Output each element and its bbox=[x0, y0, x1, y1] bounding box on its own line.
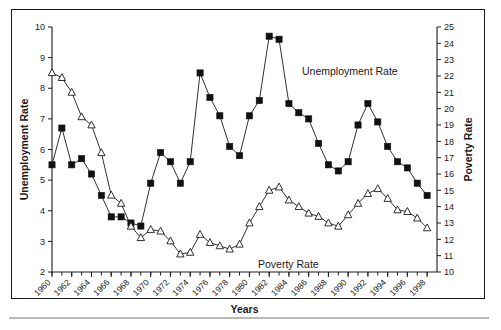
marker-unemployment bbox=[227, 143, 233, 149]
left-axis-tick-label: 9 bbox=[40, 53, 45, 63]
marker-poverty bbox=[275, 183, 282, 190]
marker-poverty bbox=[147, 226, 154, 233]
marker-unemployment bbox=[385, 143, 391, 149]
marker-poverty bbox=[295, 203, 302, 210]
left-axis-tick-label: 2 bbox=[40, 267, 45, 277]
marker-poverty bbox=[364, 190, 371, 197]
marker-unemployment bbox=[187, 159, 193, 165]
annotation-unemployment-rate: Unemployment Rate bbox=[302, 65, 398, 77]
right-axis-title: Poverty Rate bbox=[462, 117, 474, 181]
marker-poverty bbox=[414, 214, 421, 221]
x-axis-tick-label: 1966 bbox=[91, 277, 112, 298]
marker-unemployment bbox=[365, 100, 371, 106]
right-axis-tick-label: 25 bbox=[444, 22, 454, 32]
marker-poverty bbox=[98, 149, 105, 156]
marker-unemployment bbox=[157, 149, 163, 155]
x-axis-tick-label: 1976 bbox=[190, 277, 211, 298]
right-axis-tick-label: 23 bbox=[444, 55, 454, 65]
right-axis-tick-label: 16 bbox=[444, 169, 454, 179]
marker-poverty bbox=[206, 239, 213, 246]
left-axis-tick-label: 3 bbox=[40, 237, 45, 247]
x-axis-tick-label: 1988 bbox=[308, 277, 329, 298]
marker-unemployment bbox=[118, 214, 124, 220]
marker-poverty bbox=[196, 230, 203, 237]
x-axis-tick-label: 1960 bbox=[32, 277, 53, 298]
marker-unemployment bbox=[414, 180, 420, 186]
marker-poverty bbox=[187, 248, 194, 255]
left-axis-tick-label: 4 bbox=[40, 206, 45, 216]
marker-poverty bbox=[68, 88, 75, 95]
right-axis-tick-label: 12 bbox=[444, 235, 454, 245]
marker-unemployment bbox=[217, 113, 223, 119]
marker-unemployment bbox=[98, 192, 104, 198]
marker-unemployment bbox=[167, 159, 173, 165]
right-axis-tick-label: 14 bbox=[444, 202, 454, 212]
right-axis-tick-label: 10 bbox=[444, 267, 454, 277]
right-axis-tick-label: 19 bbox=[444, 120, 454, 130]
marker-poverty bbox=[305, 209, 312, 216]
right-axis-tick-label: 17 bbox=[444, 153, 454, 163]
x-axis-tick-label: 1968 bbox=[111, 277, 132, 298]
marker-unemployment bbox=[246, 113, 252, 119]
x-axis-tick-label: 1980 bbox=[229, 277, 250, 298]
marker-unemployment bbox=[404, 165, 410, 171]
right-axis-tick-label: 15 bbox=[444, 186, 454, 196]
marker-unemployment bbox=[315, 140, 321, 146]
x-axis-tick-label: 1962 bbox=[52, 277, 73, 298]
marker-unemployment bbox=[148, 180, 154, 186]
x-axis-tick-label: 1972 bbox=[150, 277, 171, 298]
marker-unemployment bbox=[236, 153, 242, 159]
chart-plot-area: 2345678910101112131415161718192021222324… bbox=[0, 0, 501, 330]
marker-poverty bbox=[78, 113, 85, 120]
marker-unemployment bbox=[88, 171, 94, 177]
marker-unemployment bbox=[266, 33, 272, 39]
right-axis-tick-label: 11 bbox=[444, 251, 453, 261]
x-axis-tick-label: 1990 bbox=[328, 277, 349, 298]
right-axis-tick-label: 22 bbox=[444, 71, 454, 81]
marker-poverty bbox=[246, 219, 253, 226]
marker-unemployment bbox=[59, 125, 65, 131]
marker-unemployment bbox=[177, 180, 183, 186]
marker-poverty bbox=[117, 199, 124, 206]
marker-unemployment bbox=[138, 223, 144, 229]
marker-unemployment bbox=[197, 70, 203, 76]
left-axis-tick-label: 8 bbox=[40, 83, 45, 93]
marker-unemployment bbox=[325, 162, 331, 168]
left-axis-title: Unemployment Rate bbox=[18, 99, 30, 201]
marker-unemployment bbox=[345, 159, 351, 165]
x-axis-tick-label: 1992 bbox=[348, 277, 369, 298]
series-line-2 bbox=[52, 73, 427, 254]
x-axis-tick-label: 1994 bbox=[368, 277, 389, 298]
marker-poverty bbox=[58, 74, 65, 81]
marker-poverty bbox=[374, 185, 381, 192]
marker-unemployment bbox=[207, 94, 213, 100]
x-axis-tick-label: 1978 bbox=[210, 277, 231, 298]
marker-poverty bbox=[48, 69, 55, 76]
right-axis-tick-label: 18 bbox=[444, 137, 454, 147]
marker-poverty bbox=[88, 121, 95, 128]
marker-poverty bbox=[325, 219, 332, 226]
marker-unemployment bbox=[69, 162, 75, 168]
x-axis-title: Years bbox=[230, 303, 258, 315]
marker-unemployment bbox=[256, 97, 262, 103]
x-axis-tick-label: 1970 bbox=[131, 277, 152, 298]
marker-unemployment bbox=[306, 116, 312, 122]
left-axis-tick-label: 10 bbox=[35, 22, 45, 32]
x-axis-tick-label: 1998 bbox=[407, 277, 428, 298]
x-axis-tick-label: 1964 bbox=[71, 277, 92, 298]
marker-poverty bbox=[236, 240, 243, 247]
right-axis-tick-label: 21 bbox=[444, 88, 454, 98]
marker-unemployment bbox=[335, 168, 341, 174]
marker-poverty bbox=[256, 203, 263, 210]
footer-divider-rule bbox=[9, 317, 489, 319]
marker-unemployment bbox=[108, 214, 114, 220]
marker-poverty bbox=[108, 191, 115, 198]
right-axis-tick-label: 13 bbox=[444, 218, 454, 228]
annotation-poverty-rate: Poverty Rate bbox=[258, 258, 319, 270]
marker-unemployment bbox=[79, 156, 85, 162]
right-axis-tick-label: 24 bbox=[444, 39, 454, 49]
marker-unemployment bbox=[375, 119, 381, 125]
figure-container: 2345678910101112131415161718192021222324… bbox=[0, 0, 501, 330]
marker-unemployment bbox=[355, 122, 361, 128]
marker-unemployment bbox=[276, 36, 282, 42]
